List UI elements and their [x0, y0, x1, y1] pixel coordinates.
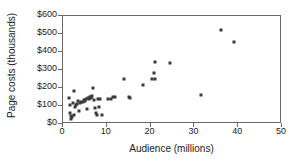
data-point — [232, 40, 235, 43]
data-point — [97, 106, 100, 109]
y-axis-tick-label: $500 — [37, 28, 57, 37]
data-point — [95, 113, 98, 116]
data-point — [92, 87, 95, 90]
x-axis-tick-label: 10 — [94, 127, 118, 136]
x-axis-tick-label: 50 — [269, 127, 293, 136]
data-point — [113, 96, 116, 99]
y-axis-tick-label: $600 — [37, 10, 57, 19]
data-point — [123, 78, 126, 81]
x-axis-tick-label: 20 — [138, 127, 162, 136]
x-axis-tick-label: 30 — [181, 127, 205, 136]
data-point — [129, 97, 132, 100]
x-axis-tick-mark — [62, 123, 63, 127]
data-point — [68, 96, 71, 99]
data-point — [153, 60, 156, 63]
data-point — [169, 62, 172, 65]
data-point — [93, 106, 96, 109]
y-axis-tick-label: $200 — [37, 82, 57, 91]
x-axis-tick-mark — [193, 123, 194, 127]
data-point — [85, 107, 88, 110]
data-point — [73, 113, 76, 116]
data-point — [153, 78, 156, 81]
data-point — [99, 98, 102, 101]
y-axis-tick-label: $100 — [37, 100, 57, 109]
data-point — [142, 84, 145, 87]
y-axis-tick-label: $300 — [37, 64, 57, 73]
x-axis-tick-mark — [281, 123, 282, 127]
y-axis-tick-label: $0 — [47, 118, 57, 127]
scatter-chart: $0$100$200$300$400$500$600 01020304050 A… — [0, 0, 305, 165]
data-points-layer — [63, 16, 280, 122]
data-point — [219, 29, 222, 32]
x-axis-tick-label: 40 — [225, 127, 249, 136]
x-axis-tick-mark — [237, 123, 238, 127]
data-point — [72, 90, 75, 93]
x-axis-tick-mark — [150, 123, 151, 127]
x-axis-title: Audience (millions) — [62, 143, 281, 154]
data-point — [152, 71, 155, 74]
data-point — [91, 95, 94, 98]
y-axis-title: Page costs (thousands) — [6, 6, 17, 126]
plot-area — [62, 15, 281, 123]
data-point — [78, 109, 81, 112]
data-point — [199, 93, 202, 96]
x-axis-tick-label: 0 — [50, 127, 74, 136]
x-axis-tick-mark — [106, 123, 107, 127]
data-point — [100, 114, 103, 117]
y-axis-tick-label: $400 — [37, 46, 57, 55]
